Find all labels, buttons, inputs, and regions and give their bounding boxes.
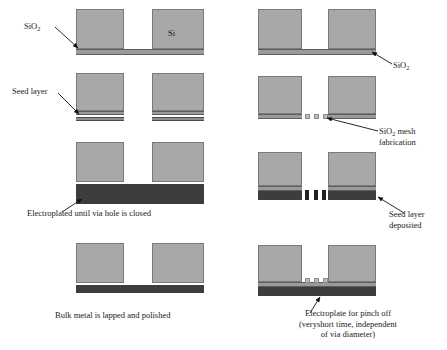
sio2-mesh-pillar bbox=[323, 278, 328, 283]
silicon-block-right bbox=[328, 76, 376, 114]
sio2-substrate-layer bbox=[258, 114, 302, 119]
caption-electroplated-closed: Electroplated until via hole is closed bbox=[27, 208, 151, 219]
silicon-block-right bbox=[328, 152, 376, 186]
label-sio2-mesh-fabrication: SiO2 meshfabrication bbox=[379, 126, 445, 147]
sio2-mesh-pillar bbox=[305, 114, 310, 119]
silicon-block-right bbox=[328, 245, 376, 282]
annotation-arrows bbox=[0, 0, 447, 350]
caption-electroplate-pinch-off: Electroplate for pinch off(veryshort tim… bbox=[262, 308, 434, 340]
leader-sio2-mesh bbox=[327, 118, 378, 131]
caption-lapped-polished: Bulk metal is lapped and polished bbox=[55, 310, 170, 321]
silicon-block-left bbox=[258, 245, 302, 282]
label-sio2-right: SiO2 bbox=[393, 60, 409, 71]
electroplated-metal-polished bbox=[76, 285, 204, 293]
silicon-block-right bbox=[328, 9, 376, 49]
sio2-mesh-pillar-coated bbox=[305, 190, 309, 200]
silicon-block-left bbox=[76, 142, 124, 182]
electroplated-metal-bulk bbox=[76, 184, 204, 204]
silicon-block-left bbox=[76, 73, 124, 111]
sio2-mesh-pillar-coated bbox=[314, 190, 318, 200]
silicon-block-right bbox=[152, 142, 204, 182]
label-sio2-left: SiO2 bbox=[24, 21, 40, 32]
sio2-mesh-pillar-coated bbox=[322, 190, 326, 200]
sio2-mesh-pillar bbox=[305, 278, 310, 283]
leader-sio2-left bbox=[55, 27, 78, 48]
silicon-block-left bbox=[76, 9, 124, 49]
silicon-block-right bbox=[152, 9, 204, 49]
silicon-block-right bbox=[152, 73, 204, 111]
sio2-substrate-layer bbox=[76, 111, 124, 115]
silicon-block-left bbox=[76, 243, 124, 283]
silicon-block-left bbox=[258, 76, 302, 114]
sio2-substrate-layer bbox=[76, 49, 204, 55]
sio2-mesh-pillar bbox=[323, 114, 328, 119]
sio2-substrate-layer bbox=[328, 114, 376, 119]
label-seed-layer-deposited: Seed layerdeposited bbox=[389, 209, 447, 230]
seed-layer-film bbox=[258, 191, 302, 200]
sio2-substrate-layer bbox=[152, 111, 204, 115]
silicon-block-right bbox=[152, 243, 204, 283]
pinch-off-metal-layer bbox=[258, 287, 376, 296]
silicon-block-left bbox=[258, 9, 302, 49]
sio2-substrate-layer bbox=[258, 49, 376, 55]
sio2-mesh-pillar bbox=[314, 114, 319, 119]
seed-layer-film bbox=[152, 117, 204, 121]
silicon-material-label: Si bbox=[168, 28, 175, 38]
seed-layer-film bbox=[76, 117, 124, 121]
figure-canvas: Si bbox=[0, 0, 447, 350]
sio2-mesh-pillar bbox=[314, 278, 319, 283]
silicon-block-left bbox=[258, 152, 302, 186]
label-seed-layer-left: Seed layer bbox=[12, 86, 48, 97]
seed-layer-film bbox=[328, 191, 376, 200]
